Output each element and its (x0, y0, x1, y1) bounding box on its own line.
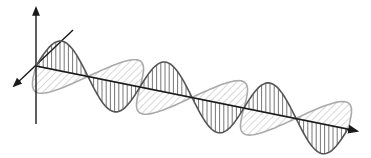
propagation-axis-arrow (36, 66, 357, 131)
em-wave-diagram (0, 0, 371, 158)
